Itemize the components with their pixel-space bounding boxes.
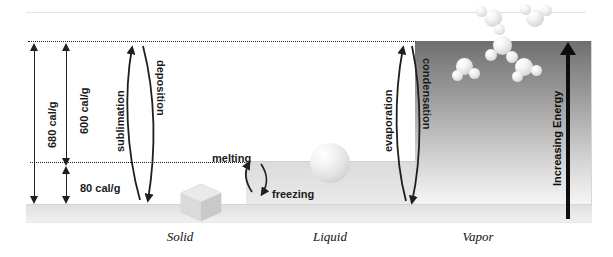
ice-cube-solid	[180, 184, 222, 222]
increasing-energy-label: Increasing Energy	[551, 91, 563, 186]
sublimation-label: sublimation	[114, 90, 126, 152]
measure-680-arrowhead-bottom	[30, 196, 38, 204]
vapor-region-edge	[591, 41, 592, 219]
water-molecule	[476, 6, 510, 36]
deposition-label: deposition	[155, 60, 167, 116]
water-molecule	[452, 56, 484, 84]
melting-label: melting	[212, 152, 251, 164]
state-label-vapor: Vapor	[418, 229, 538, 245]
water-molecule	[520, 4, 554, 32]
state-label-solid: Solid	[120, 229, 240, 245]
vapor-level-dotted-line	[28, 41, 416, 42]
increasing-energy-shaft	[566, 52, 570, 219]
measure-label-680: 680 cal/g	[46, 102, 58, 148]
measure-600-shaft	[66, 49, 67, 159]
measure-680-shaft	[34, 49, 35, 197]
measure-label-80: 80 cal/g	[80, 182, 120, 194]
base-band	[26, 205, 592, 222]
measure-80-arrowhead-bottom	[62, 196, 70, 204]
state-label-liquid: Liquid	[270, 229, 390, 245]
base-band-bottom-edge	[26, 222, 592, 223]
phase-change-diagram: 680 cal/g 600 cal/g 80 cal/g sublimation…	[0, 0, 613, 257]
freezing-label: freezing	[272, 188, 314, 200]
sublimation-arrow	[127, 48, 140, 200]
condensation-label: condensation	[421, 58, 433, 130]
measure-600-arrowhead-bottom	[62, 158, 70, 166]
evaporation-label: evaporation	[382, 90, 394, 152]
water-molecule	[512, 56, 546, 84]
measure-80-shaft	[66, 172, 67, 197]
measure-label-600: 600 cal/g	[78, 88, 90, 134]
water-droplet-liquid	[310, 143, 350, 183]
deposition-arrow	[143, 46, 153, 200]
